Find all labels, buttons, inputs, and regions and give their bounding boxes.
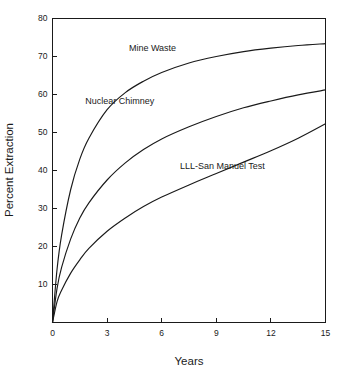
chart-container: 1020304050607080 03691215 Mine WasteNucl… — [0, 0, 346, 371]
data-series-group — [53, 44, 326, 323]
extraction-line-chart: 1020304050607080 03691215 Mine WasteNucl… — [0, 0, 346, 371]
x-tick-label: 12 — [266, 328, 276, 338]
y-tick-label: 10 — [38, 279, 48, 289]
series-curve — [53, 124, 326, 323]
y-axis-title: Percent Extraction — [3, 123, 15, 217]
y-tick-label: 60 — [38, 89, 48, 99]
series-curve — [53, 44, 326, 323]
x-tick-label: 9 — [214, 328, 219, 338]
x-axis-ticks: 03691215 — [50, 318, 330, 338]
x-axis-title: Years — [175, 355, 204, 367]
y-tick-label: 20 — [38, 241, 48, 251]
series-label: LLL-San Manuel Test — [180, 161, 265, 171]
x-tick-label: 6 — [159, 328, 164, 338]
x-tick-label: 3 — [105, 328, 110, 338]
series-label: Nuclear Chimney — [85, 96, 155, 106]
series-label: Mine Waste — [129, 43, 176, 53]
y-tick-label: 50 — [38, 127, 48, 137]
series-curve — [53, 90, 326, 323]
series-annotations: Mine WasteNuclear ChimneyLLL-San Manuel … — [85, 43, 265, 171]
x-tick-label: 0 — [50, 328, 55, 338]
y-axis-ticks: 1020304050607080 — [38, 13, 57, 289]
y-tick-label: 70 — [38, 51, 48, 61]
y-tick-label: 40 — [38, 165, 48, 175]
y-tick-label: 30 — [38, 203, 48, 213]
x-tick-label: 15 — [321, 328, 331, 338]
y-tick-label: 80 — [38, 13, 48, 23]
